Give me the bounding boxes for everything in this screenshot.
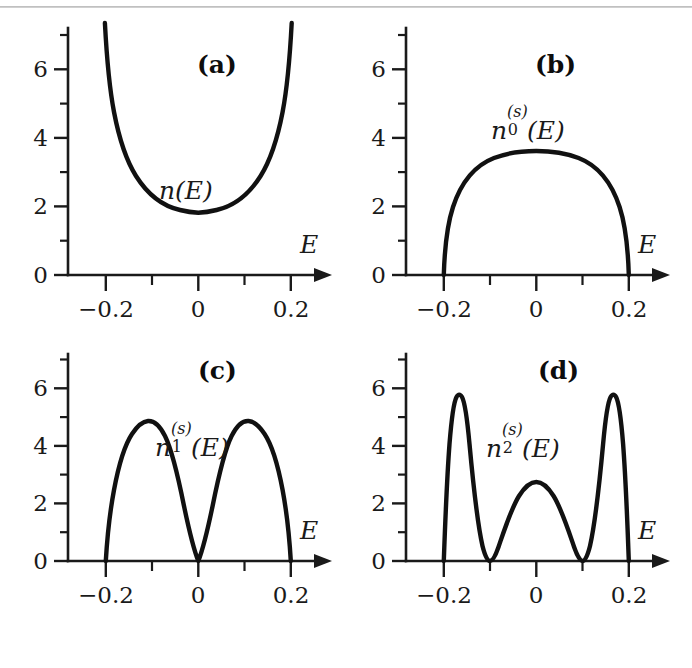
panel-d-xtick-0: 0 (491, 584, 581, 607)
panel-b-xtick-neg02: −0.2 (399, 298, 489, 321)
page-top-rule (0, 6, 692, 8)
panel-d-xaxis-name: E (638, 518, 656, 543)
panel-d-ytick-2: 2 (360, 492, 386, 515)
panel-d-yticks (392, 360, 406, 562)
panel-a-xaxis-name: E (300, 232, 318, 257)
figure-panel-grid: (a) n(E) E 0 2 4 6 −0.2 0 0.2 (0, 10, 692, 668)
panel-c-ytick-2: 2 (22, 492, 48, 515)
panel-b-plot (346, 10, 692, 334)
panel-a-ytick-4: 4 (22, 127, 48, 150)
panel-c-letter: (c) (198, 358, 237, 383)
panel-a-ytick-0: 0 (22, 264, 48, 287)
panel-b-label-sup: (s) (507, 104, 528, 120)
panel-a-plot (0, 10, 346, 334)
panel-d-label-arg: (E) (522, 434, 560, 463)
panel-c-ytick-4: 4 (22, 435, 48, 458)
panel-b-ytick-0: 0 (360, 264, 386, 287)
panel-d-letter: (d) (538, 358, 579, 383)
panel-a-xtick-neg02: −0.2 (61, 298, 151, 321)
panel-b-xtick-0: 0 (491, 298, 581, 321)
panel-c-ytick-0: 0 (22, 550, 48, 573)
panel-a-ytick-2: 2 (22, 195, 48, 218)
panel-d-ytick-4: 4 (360, 435, 386, 458)
panel-a-label-arg: (E) (175, 176, 213, 205)
panel-d-ytick-6: 6 (360, 377, 386, 400)
panel-c-label-sup: (s) (171, 421, 192, 437)
panel-b-label-sub: 0 (508, 122, 518, 138)
panel-c-label-sub: 1 (172, 439, 182, 455)
panel-b-ytick-4: 4 (360, 127, 386, 150)
panel-a-xtick-0: 0 (153, 298, 243, 321)
panel-b-label-base: n (491, 116, 507, 145)
panel-a: (a) n(E) E 0 2 4 6 −0.2 0 0.2 (0, 10, 346, 334)
panel-d-xtick-02: 0.2 (584, 584, 674, 607)
panel-a-yticks (54, 35, 68, 275)
panel-b-label-indices: (s)0 (507, 114, 527, 139)
panel-d-curve (444, 395, 629, 561)
panel-c-label-arg: (E) (191, 433, 229, 462)
panel-d-ytick-0: 0 (360, 550, 386, 573)
panel-c-ytick-6: 6 (22, 377, 48, 400)
panel-d-xticks (444, 561, 629, 577)
panel-c-xtick-0: 0 (153, 584, 243, 607)
panel-a-xticks (106, 275, 291, 291)
panel-a-curve-label: n(E) (159, 178, 213, 203)
panel-a-xtick-02: 0.2 (246, 298, 336, 321)
panel-b-curve (444, 151, 629, 275)
panel-b-xticks (444, 275, 629, 291)
panel-c-label-base: n (155, 433, 171, 462)
panel-d-label-sup: (s) (502, 422, 523, 438)
panel-c-yticks (54, 360, 68, 562)
panel-b-ytick-2: 2 (360, 195, 386, 218)
panel-d: (d) n(s)2(E) E 0 2 4 6 −0.2 0 0.2 (346, 334, 692, 668)
panel-a-letter: (a) (197, 52, 237, 77)
panel-c-xtick-02: 0.2 (246, 584, 336, 607)
panel-d-plot (346, 334, 692, 668)
panel-c-xticks (106, 561, 291, 577)
panel-b-yticks (392, 35, 406, 275)
panel-d-xtick-neg02: −0.2 (399, 584, 489, 607)
panel-b-letter: (b) (535, 52, 576, 77)
panel-c-plot (0, 334, 346, 668)
panel-d-label-base: n (486, 434, 502, 463)
panel-b-label-arg: (E) (527, 116, 565, 145)
panel-d-curve-label: n(s)2(E) (486, 432, 560, 461)
panel-c-label-indices: (s)1 (171, 431, 191, 456)
panel-d-label-indices: (s)2 (502, 432, 522, 457)
panel-b-xtick-02: 0.2 (584, 298, 674, 321)
panel-c: (c) n(s)1(E) E 0 2 4 6 −0.2 0 0.2 (0, 334, 346, 668)
panel-c-xaxis-name: E (300, 518, 318, 543)
panel-c-curve-label: n(s)1(E) (155, 431, 229, 460)
panel-b: (b) n(s)0(E) E 0 2 4 6 −0.2 0 0.2 (346, 10, 692, 334)
panel-b-ytick-6: 6 (360, 58, 386, 81)
panel-a-label-base: n (159, 176, 175, 205)
panel-c-xtick-neg02: −0.2 (61, 584, 151, 607)
panel-d-label-sub: 2 (503, 440, 513, 456)
panel-a-ytick-6: 6 (22, 58, 48, 81)
panel-b-curve-label: n(s)0(E) (491, 114, 565, 143)
panel-b-xaxis-name: E (638, 232, 656, 257)
